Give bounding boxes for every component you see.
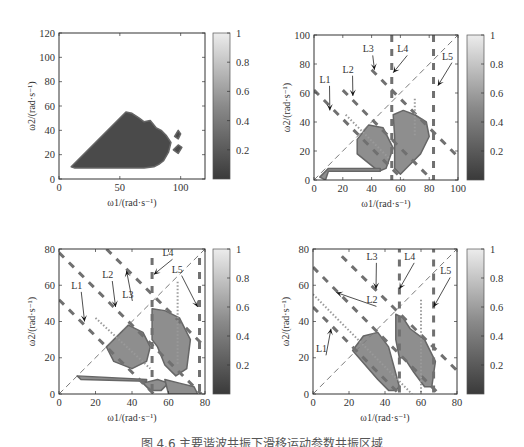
colorbar-tick-label: 0.8 bbox=[490, 273, 503, 284]
x-tick-label: 60 bbox=[416, 397, 427, 408]
x-axis-label: ω1/(rad·s⁻¹) bbox=[107, 412, 156, 424]
plot-area bbox=[71, 112, 182, 168]
x-tick-label: 80 bbox=[452, 397, 463, 408]
y-tick-label: 80 bbox=[299, 244, 310, 255]
colorbar bbox=[213, 249, 230, 394]
colorbar-tick-label: 0.2 bbox=[236, 145, 249, 156]
subplot-b: L1L2L3L4L5020406080100020406080100ω1/(ra… bbox=[281, 30, 504, 211]
x-axis-label: ω1/(rad·s⁻¹) bbox=[360, 412, 409, 424]
y-tick-label: 60 bbox=[299, 280, 310, 291]
resonance-region bbox=[165, 380, 198, 395]
resonance-region bbox=[393, 110, 429, 174]
figure: 050100020406080100120ω1/(rad·s⁻¹)ω2/(rad… bbox=[0, 0, 524, 447]
arrow-icon bbox=[438, 79, 444, 86]
y-tick-label: 40 bbox=[45, 125, 56, 136]
colorbar-tick-label: 0.4 bbox=[490, 117, 504, 128]
y-tick-label: 100 bbox=[39, 52, 55, 63]
x-axis-label: ω1/(rad·s⁻¹) bbox=[361, 198, 410, 210]
subplot-d: L1L2L3L4L5020406080020406080ω1/(rad·s⁻¹)… bbox=[280, 244, 504, 425]
x-tick-label: 20 bbox=[90, 397, 101, 408]
x-tick-label: 60 bbox=[395, 183, 406, 194]
x-tick-label: 40 bbox=[380, 397, 391, 408]
x-axis-label: ω1/(rad·s⁻¹) bbox=[107, 197, 156, 209]
x-tick-label: 100 bbox=[173, 182, 189, 193]
x-tick-label: 80 bbox=[200, 397, 211, 408]
colorbar-tick-label: 0.2 bbox=[490, 360, 503, 371]
colorbar-tick-label: 0.4 bbox=[236, 331, 250, 342]
y-tick-label: 0 bbox=[304, 389, 309, 400]
y-tick-label: 60 bbox=[45, 101, 56, 112]
resonance-region bbox=[353, 332, 400, 390]
y-tick-label: 40 bbox=[300, 117, 311, 128]
subplot-c: L1L2L3L4L5020406080020406080ω1/(rad·s⁻¹)… bbox=[26, 244, 250, 425]
resonance-region bbox=[173, 145, 182, 154]
colorbar bbox=[467, 249, 484, 394]
colorbar-tick-label: 0.4 bbox=[490, 331, 504, 342]
colorbar-tick-label: 0.6 bbox=[236, 302, 249, 313]
y-tick-label: 0 bbox=[305, 175, 310, 186]
x-tick-label: 60 bbox=[163, 397, 174, 408]
colorbar bbox=[467, 35, 484, 180]
annotation-L2: L2 bbox=[366, 294, 377, 305]
y-tick-label: 20 bbox=[299, 352, 310, 363]
x-tick-label: 80 bbox=[424, 183, 435, 194]
colorbar-tick-label: 1 bbox=[490, 244, 495, 255]
colorbar bbox=[213, 33, 230, 179]
resonance-region bbox=[106, 325, 150, 369]
x-tick-label: 0 bbox=[56, 182, 61, 193]
y-tick-label: 80 bbox=[45, 76, 56, 87]
colorbar-tick-label: 0.8 bbox=[236, 273, 249, 284]
x-tick-label: 20 bbox=[344, 397, 355, 408]
y-axis-label: ω2/(rad·s⁻¹) bbox=[280, 297, 292, 346]
y-tick-label: 100 bbox=[294, 30, 310, 41]
arrow-icon bbox=[434, 300, 440, 307]
arrow-icon bbox=[399, 282, 405, 289]
x-tick-label: 0 bbox=[310, 397, 315, 408]
colorbar-tick-label: 0.2 bbox=[236, 360, 249, 371]
annotation-L4: L4 bbox=[404, 251, 415, 262]
plot-area bbox=[314, 35, 458, 180]
y-axis-label: ω2/(rad·s⁻¹) bbox=[281, 83, 293, 132]
y-tick-label: 20 bbox=[45, 352, 56, 363]
colorbar-tick-label: 0.6 bbox=[490, 88, 503, 99]
x-tick-label: 0 bbox=[311, 183, 316, 194]
annotation-L3: L3 bbox=[122, 289, 133, 300]
resonance-region bbox=[396, 314, 436, 387]
x-tick-label: 40 bbox=[366, 183, 377, 194]
annotation-L5: L5 bbox=[440, 265, 451, 276]
resonance-region bbox=[320, 168, 380, 180]
y-tick-label: 0 bbox=[50, 389, 55, 400]
colorbar-tick-label: 0.8 bbox=[490, 59, 503, 70]
y-tick-label: 40 bbox=[45, 316, 56, 327]
colorbar-tick-label: 0.8 bbox=[236, 57, 249, 68]
colorbar-tick-label: 0.6 bbox=[490, 302, 503, 313]
x-tick-label: 20 bbox=[338, 183, 349, 194]
annotation-L4: L4 bbox=[397, 43, 408, 54]
y-tick-label: 40 bbox=[299, 316, 310, 327]
annotation-L4: L4 bbox=[163, 247, 174, 258]
annotation-L2: L2 bbox=[343, 64, 354, 75]
annotation-L5: L5 bbox=[172, 264, 183, 275]
annotation-L1: L1 bbox=[71, 280, 82, 291]
y-tick-label: 120 bbox=[39, 28, 55, 39]
resonance-region bbox=[71, 112, 171, 168]
annotation-L3: L3 bbox=[363, 43, 374, 54]
colorbar-tick-label: 1 bbox=[236, 244, 241, 255]
y-axis-label: ω2/(rad·s⁻¹) bbox=[26, 297, 38, 346]
figure-caption: 图 4.6 主要谐波共振下滑移运动参数共振区域 bbox=[0, 434, 524, 447]
y-tick-label: 20 bbox=[300, 146, 311, 157]
colorbar-tick-label: 0.6 bbox=[236, 86, 249, 97]
colorbar-tick-label: 0.4 bbox=[236, 116, 250, 127]
y-tick-label: 60 bbox=[45, 280, 56, 291]
annotation-L2: L2 bbox=[102, 269, 113, 280]
y-tick-label: 0 bbox=[50, 174, 55, 185]
x-tick-label: 0 bbox=[56, 397, 61, 408]
resonance-region bbox=[77, 376, 146, 381]
y-axis-label: ω2/(rad·s⁻¹) bbox=[26, 81, 38, 130]
annotation-L1: L1 bbox=[320, 74, 331, 85]
colorbar-tick-label: 1 bbox=[236, 28, 241, 39]
y-tick-label: 60 bbox=[300, 88, 311, 99]
y-tick-label: 80 bbox=[45, 244, 56, 255]
y-tick-label: 80 bbox=[300, 59, 311, 70]
annotation-L5: L5 bbox=[442, 51, 453, 62]
